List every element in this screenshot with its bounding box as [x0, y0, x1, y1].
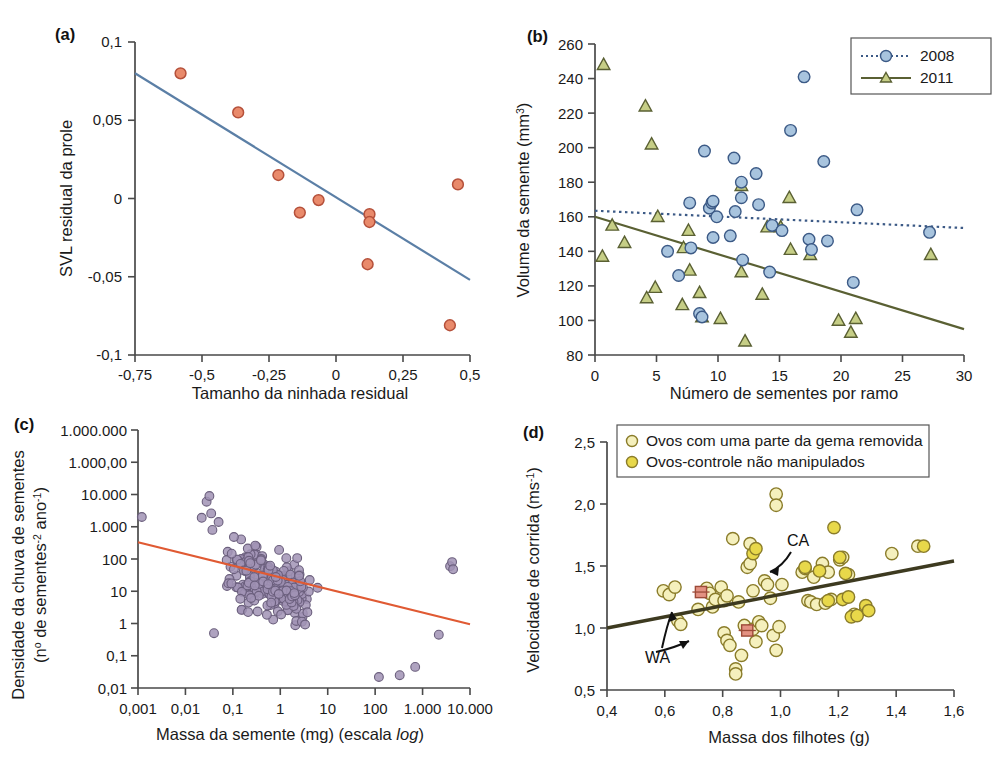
panel-c-ytick-label: 0,01 — [98, 680, 127, 697]
panel-b-data-point-2011 — [683, 264, 696, 275]
panel-b-data-point-2008 — [707, 195, 719, 207]
panel-d-data-point-removed — [727, 533, 739, 545]
panel-d-annot-label-ca: CA — [787, 532, 810, 549]
panel-b-data-point-2011 — [756, 288, 769, 299]
panel-b-data-point-2011 — [783, 191, 796, 202]
panel-b: (b) 26024022020018016014012010080 051015… — [499, 0, 998, 400]
panel-a-xtick-1: -0,5 — [189, 366, 215, 383]
panel-b-ytick-label: 120 — [558, 277, 583, 294]
panel-c-data-point — [227, 549, 236, 558]
panel-c-data-point — [266, 561, 275, 570]
panel-c-data-point — [230, 533, 239, 542]
panel-d-legend-item-control[interactable]: Ovos-controle não manipulados — [627, 453, 866, 470]
panel-b-xtick-label: 15 — [771, 367, 788, 384]
panel-c-xlabel-italic: log — [396, 725, 419, 743]
panel-b-y-ticks: 26024022020018016014012010080 — [558, 36, 595, 364]
panel-b-data-point-2011 — [784, 243, 797, 254]
panel-d-xtick-label: 1,6 — [944, 702, 965, 719]
panel-b-ytick-label: 80 — [566, 347, 583, 364]
panel-a-ytick-2: 0 — [114, 190, 122, 207]
panel-a-xtick-0: -0,75 — [118, 366, 152, 383]
panel-d-legend: Ovos com uma parte da gema removida Ovos… — [617, 425, 929, 477]
panel-b-data-point-2008 — [924, 227, 936, 239]
panel-c-data-point — [247, 594, 256, 603]
panel-a-data-point — [445, 320, 456, 331]
panel-c-ytick-label: 100 — [102, 551, 127, 568]
panel-c-data-point — [275, 546, 284, 555]
panel-d-ytick-label: 1,5 — [574, 558, 595, 575]
panel-b-data-point-2008 — [711, 211, 723, 223]
panel-c-xtick-label: 1 — [276, 700, 284, 717]
panel-c-data-point — [244, 608, 253, 617]
panel-b-ytick-label: 220 — [558, 105, 583, 122]
panel-c-data-point — [263, 610, 272, 619]
panel-b-data-point-2011 — [714, 312, 727, 323]
panel-c-xlabel: Massa da semente (mg) (escala log) — [156, 725, 424, 743]
panel-d-data-point-removed — [729, 668, 741, 680]
panel-c-data-point — [295, 571, 304, 580]
panel-c-data-point — [277, 610, 286, 619]
panel-a-data-point — [362, 259, 373, 270]
panel-b-data-point-2008 — [699, 145, 711, 157]
panel-b-data-point-2008 — [851, 204, 863, 216]
panel-a-ytick-0: 0,1 — [101, 33, 122, 50]
panel-c-data-point — [210, 629, 219, 638]
panel-b-xtick-label: 5 — [652, 367, 660, 384]
panel-b-data-point-2008 — [673, 270, 685, 282]
panel-b-ytick-label: 160 — [558, 208, 583, 225]
panel-c-data-point — [375, 673, 384, 682]
panel-b-legend-label-2008: 2008 — [920, 47, 954, 64]
panel-d-data-point-control — [839, 567, 851, 579]
circle-icon — [881, 51, 892, 62]
panel-b-ytick-label: 260 — [558, 36, 583, 53]
panel-a-data-point — [273, 170, 284, 181]
panel-b-data-point-2008 — [725, 230, 737, 242]
panel-c-data-point — [207, 509, 216, 518]
figure-container: (a) 0,1 0,05 0 -0,05 -0,1 — [0, 0, 998, 767]
panel-b-data-point-2008 — [806, 244, 818, 256]
panel-c-data-point — [250, 581, 259, 590]
panel-d-legend-item-removed[interactable]: Ovos com uma parte da gema removida — [627, 432, 923, 449]
panel-b-xtick-label: 10 — [710, 367, 727, 384]
panel-a-plot-area — [135, 68, 470, 331]
panel-b-data-point-2011 — [639, 100, 652, 111]
panel-d-data-point-removed — [721, 590, 733, 602]
panel-d-ylabel-sup: -1 — [524, 473, 536, 482]
panel-d-ylabel-main: Velocidade de corrida (ms — [524, 482, 542, 673]
panel-b-ylabel-main: Volume da semente (mm — [514, 114, 532, 297]
panel-c-x-ticks: 0,0010,010,11101001.00010.000 — [119, 688, 493, 717]
panel-a-x-ticks: -0,75 -0,5 -0,25 0 0,25 0,5 — [118, 355, 481, 383]
panel-b-xtick-label: 25 — [894, 367, 911, 384]
panel-b-xtick-label: 0 — [591, 367, 599, 384]
panel-d-ytick-label: 2,0 — [574, 496, 595, 513]
panel-a-data-point — [313, 195, 324, 206]
panel-d-data-point-control — [917, 540, 929, 552]
panel-b-data-point-2008 — [684, 197, 696, 209]
panel-d-tag: (d) — [523, 423, 544, 441]
panel-b-data-point-2011 — [845, 326, 858, 337]
panel-c-tag: (c) — [14, 415, 34, 433]
panel-b-data-point-2008 — [753, 199, 765, 211]
panel-d-xtick-label: 1,0 — [770, 702, 791, 719]
panel-b-data-point-2008 — [737, 254, 749, 266]
panel-b-plot-area — [595, 58, 964, 346]
panel-b-data-point-2008 — [736, 176, 748, 188]
panel-c-data-point — [137, 513, 146, 522]
panel-c-data-point — [205, 492, 214, 501]
panel-b-data-point-2011 — [739, 335, 752, 346]
panel-c-ytick-label: 1.000,00 — [69, 454, 127, 471]
panel-d-data-point-removed — [669, 581, 681, 593]
panel-d-data-point-removed — [724, 639, 736, 651]
panel-c-data-point — [227, 579, 236, 588]
panel-c-ytick-label: 10 — [110, 583, 127, 600]
panel-b-data-point-2008 — [736, 192, 748, 204]
panel-a: (a) 0,1 0,05 0 -0,05 -0,1 — [0, 0, 499, 400]
panel-d-data-point-removed — [886, 547, 898, 559]
panel-c-ylabel-line2: (no de sementes-2 ano-1) — [31, 487, 49, 663]
arrowhead-icon — [770, 567, 779, 576]
panel-b-data-point-2011 — [618, 236, 631, 247]
panel-d-data-point-control — [750, 542, 762, 554]
panel-c-data-point — [301, 620, 310, 629]
panel-a-xtick-2: -0,25 — [252, 366, 286, 383]
panel-d-data-point-control — [828, 521, 840, 533]
